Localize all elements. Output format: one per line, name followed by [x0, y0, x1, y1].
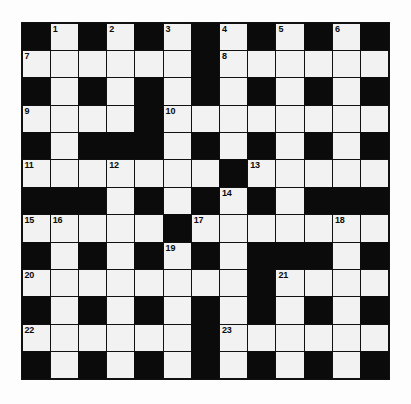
crossword-cell-open[interactable] [360, 214, 389, 242]
crossword-cell-open[interactable] [106, 242, 135, 270]
crossword-cell-open[interactable] [332, 242, 361, 270]
crossword-cell-open[interactable] [275, 105, 304, 133]
crossword-cell-open[interactable]: 13 [247, 159, 276, 187]
crossword-cell-open[interactable] [134, 214, 163, 242]
crossword-cell-open[interactable] [247, 50, 276, 78]
crossword-cell-open[interactable] [50, 105, 79, 133]
crossword-cell-open[interactable]: 20 [22, 269, 51, 297]
crossword-cell-open[interactable] [50, 324, 79, 352]
crossword-cell-open[interactable] [332, 77, 361, 105]
crossword-cell-open[interactable] [163, 187, 192, 215]
crossword-cell-open[interactable] [78, 324, 107, 352]
crossword-cell-open[interactable]: 5 [275, 23, 304, 51]
crossword-cell-open[interactable] [191, 159, 220, 187]
crossword-cell-open[interactable] [275, 132, 304, 160]
crossword-cell-open[interactable] [360, 50, 389, 78]
crossword-cell-open[interactable] [275, 324, 304, 352]
crossword-cell-open[interactable] [219, 242, 248, 270]
crossword-cell-open[interactable] [163, 269, 192, 297]
crossword-cell-open[interactable] [332, 351, 361, 379]
crossword-cell-open[interactable]: 6 [332, 23, 361, 51]
crossword-cell-open[interactable]: 11 [22, 159, 51, 187]
crossword-cell-open[interactable] [50, 50, 79, 78]
crossword-cell-open[interactable] [50, 269, 79, 297]
crossword-cell-open[interactable] [304, 324, 333, 352]
crossword-cell-open[interactable] [106, 214, 135, 242]
crossword-cell-open[interactable] [219, 77, 248, 105]
crossword-cell-open[interactable] [332, 296, 361, 324]
crossword-cell-open[interactable] [106, 77, 135, 105]
crossword-cell-open[interactable] [275, 77, 304, 105]
crossword-cell-open[interactable]: 8 [219, 50, 248, 78]
crossword-cell-open[interactable] [219, 269, 248, 297]
crossword-cell-open[interactable]: 10 [163, 105, 192, 133]
crossword-cell-open[interactable]: 9 [22, 105, 51, 133]
crossword-cell-open[interactable] [78, 105, 107, 133]
crossword-cell-open[interactable] [50, 159, 79, 187]
crossword-cell-open[interactable] [106, 269, 135, 297]
crossword-cell-open[interactable] [275, 351, 304, 379]
crossword-cell-open[interactable] [219, 132, 248, 160]
crossword-cell-open[interactable] [332, 105, 361, 133]
crossword-cell-open[interactable] [50, 132, 79, 160]
crossword-cell-open[interactable] [163, 50, 192, 78]
crossword-cell-open[interactable] [191, 105, 220, 133]
crossword-cell-open[interactable] [78, 159, 107, 187]
crossword-cell-open[interactable] [275, 296, 304, 324]
crossword-cell-open[interactable] [78, 269, 107, 297]
crossword-cell-open[interactable] [106, 296, 135, 324]
crossword-cell-open[interactable]: 7 [22, 50, 51, 78]
crossword-cell-open[interactable] [247, 105, 276, 133]
crossword-cell-open[interactable]: 2 [106, 23, 135, 51]
crossword-cell-open[interactable] [219, 351, 248, 379]
crossword-cell-open[interactable] [275, 214, 304, 242]
crossword-cell-open[interactable]: 21 [275, 269, 304, 297]
crossword-cell-open[interactable] [50, 77, 79, 105]
crossword-cell-open[interactable] [332, 132, 361, 160]
crossword-cell-open[interactable] [163, 296, 192, 324]
crossword-cell-open[interactable] [134, 159, 163, 187]
crossword-cell-open[interactable] [304, 50, 333, 78]
crossword-cell-open[interactable]: 1 [50, 23, 79, 51]
crossword-cell-open[interactable] [332, 324, 361, 352]
crossword-cell-open[interactable] [50, 296, 79, 324]
crossword-cell-open[interactable] [219, 214, 248, 242]
crossword-cell-open[interactable] [360, 159, 389, 187]
crossword-cell-open[interactable]: 18 [332, 214, 361, 242]
crossword-cell-open[interactable] [78, 214, 107, 242]
crossword-cell-open[interactable] [219, 296, 248, 324]
crossword-cell-open[interactable] [191, 269, 220, 297]
crossword-cell-open[interactable] [78, 50, 107, 78]
crossword-cell-open[interactable]: 16 [50, 214, 79, 242]
crossword-cell-open[interactable] [163, 77, 192, 105]
crossword-cell-open[interactable] [106, 324, 135, 352]
crossword-cell-open[interactable] [106, 187, 135, 215]
crossword-cell-open[interactable] [332, 159, 361, 187]
crossword-cell-open[interactable] [106, 50, 135, 78]
crossword-cell-open[interactable] [134, 269, 163, 297]
crossword-cell-open[interactable] [50, 351, 79, 379]
crossword-cell-open[interactable] [360, 269, 389, 297]
crossword-cell-open[interactable] [163, 132, 192, 160]
crossword-cell-open[interactable] [134, 50, 163, 78]
crossword-cell-open[interactable]: 15 [22, 214, 51, 242]
crossword-cell-open[interactable] [106, 351, 135, 379]
crossword-cell-open[interactable] [106, 105, 135, 133]
crossword-cell-open[interactable]: 14 [219, 187, 248, 215]
crossword-cell-open[interactable]: 22 [22, 324, 51, 352]
crossword-cell-open[interactable] [247, 214, 276, 242]
crossword-cell-open[interactable] [304, 159, 333, 187]
crossword-cell-open[interactable]: 4 [219, 23, 248, 51]
crossword-cell-open[interactable]: 12 [106, 159, 135, 187]
crossword-cell-open[interactable] [163, 324, 192, 352]
crossword-cell-open[interactable] [163, 159, 192, 187]
crossword-cell-open[interactable] [275, 187, 304, 215]
crossword-cell-open[interactable] [247, 324, 276, 352]
crossword-cell-open[interactable] [163, 351, 192, 379]
crossword-grid[interactable]: 1234567891011121314151617181920212223 [21, 22, 390, 380]
crossword-cell-open[interactable] [50, 242, 79, 270]
crossword-cell-open[interactable] [360, 324, 389, 352]
crossword-cell-open[interactable] [304, 214, 333, 242]
crossword-cell-open[interactable]: 23 [219, 324, 248, 352]
crossword-cell-open[interactable]: 17 [191, 214, 220, 242]
